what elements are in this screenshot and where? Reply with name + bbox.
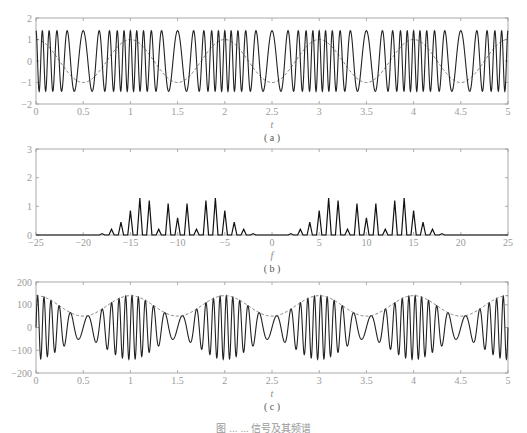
panel-b: −25−20−15−10−505101520250123 f ( b ) <box>27 144 513 276</box>
x-tick-label: 20 <box>456 237 466 248</box>
subtitle-a: ( a ) <box>264 132 280 144</box>
x-tick-label: 1 <box>128 375 133 386</box>
xlabel-b: f <box>271 250 275 261</box>
x-tick-label: 10 <box>361 237 371 248</box>
y-tick-label: 100 <box>17 299 32 310</box>
y-tick-label: 3 <box>27 144 32 155</box>
x-tick-label: −5 <box>219 237 230 248</box>
x-tick-label: 1 <box>128 106 133 117</box>
xlabel-c: t <box>271 388 274 399</box>
y-tick-label: 0 <box>27 230 32 241</box>
x-tick-label: 4.5 <box>455 375 468 386</box>
x-tick-label: 2 <box>222 106 227 117</box>
panel-c: 00.511.522.533.544.55−200−1000100200 t (… <box>11 277 510 414</box>
differentiated-signal-line <box>36 296 508 360</box>
figure-caption: 图 ... ... 信号及其频谱 <box>216 422 311 433</box>
x-tick-label: 5 <box>317 237 322 248</box>
x-tick-label: 1.5 <box>171 106 184 117</box>
y-tick-label: −100 <box>11 345 32 356</box>
plot-frame-b <box>36 149 508 235</box>
x-tick-label: 3.5 <box>360 375 373 386</box>
x-tick-label: 4.5 <box>455 106 468 117</box>
y-tick-label: 2 <box>27 13 32 24</box>
x-tick-label: 15 <box>409 237 419 248</box>
subtitle-b: ( b ) <box>264 263 281 275</box>
axis-ticks-c: 00.511.522.533.544.55−200−1000100200 <box>11 277 510 387</box>
x-tick-label: 2.5 <box>266 375 279 386</box>
y-tick-label: −200 <box>11 368 32 379</box>
y-tick-label: 1 <box>27 201 32 212</box>
x-tick-label: 3.5 <box>360 106 373 117</box>
x-tick-label: 5 <box>506 106 511 117</box>
y-tick-label: 2 <box>27 172 32 183</box>
x-tick-label: 4 <box>411 106 416 117</box>
y-tick-label: −2 <box>21 99 32 110</box>
x-tick-label: 25 <box>503 237 513 248</box>
y-tick-label: 0 <box>27 56 32 67</box>
x-tick-label: −20 <box>75 237 91 248</box>
xlabel-a: t <box>271 119 274 130</box>
fm-signal-line <box>36 31 508 92</box>
x-tick-label: 3 <box>317 375 322 386</box>
spectrum-line <box>36 198 508 235</box>
x-tick-label: 2 <box>222 375 227 386</box>
x-tick-label: 0 <box>34 375 39 386</box>
panel-a: 00.511.522.533.544.55−2−1012 t ( a ) <box>21 13 510 145</box>
x-tick-label: 5 <box>506 375 511 386</box>
x-tick-label: 0 <box>270 237 275 248</box>
y-tick-label: 200 <box>17 277 32 288</box>
x-tick-label: 0.5 <box>77 375 90 386</box>
x-tick-label: 3 <box>317 106 322 117</box>
x-tick-label: 0 <box>34 106 39 117</box>
x-tick-label: 1.5 <box>171 375 184 386</box>
subtitle-c: ( c ) <box>264 401 280 413</box>
x-tick-label: 2.5 <box>266 106 279 117</box>
x-tick-label: −15 <box>123 237 139 248</box>
y-tick-label: −1 <box>21 77 32 88</box>
figure: 00.511.522.533.544.55−2−1012 t ( a ) −25… <box>0 0 527 433</box>
x-tick-label: 0.5 <box>77 106 90 117</box>
y-tick-label: 0 <box>27 322 32 333</box>
y-tick-label: 1 <box>27 34 32 45</box>
axis-ticks-b: −25−20−15−10−505101520250123 <box>27 144 513 249</box>
x-tick-label: 4 <box>411 375 416 386</box>
x-tick-label: −10 <box>170 237 186 248</box>
